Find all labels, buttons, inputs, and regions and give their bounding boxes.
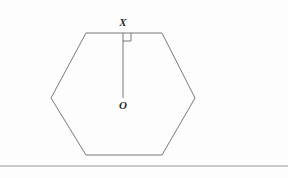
geometry-figure: X O [0,0,288,178]
center-label-o: O [116,100,130,111]
figure-canvas [0,0,288,178]
figure-background [0,0,288,178]
vertex-label-x: X [116,17,130,28]
